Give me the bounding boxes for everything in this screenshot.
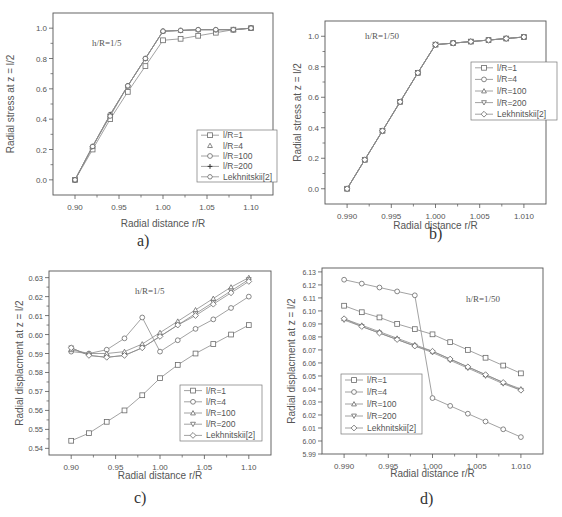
y-tick-label: 0.58 (28, 368, 43, 377)
chart-panel-b: 0.9900.9951.0001.0051.0100.00.20.40.60.8… (281, 0, 562, 258)
legend-label: l/R=4 (367, 387, 387, 397)
data-point-marker (73, 178, 78, 182)
y-tick-label: 0.4 (36, 115, 48, 124)
data-point-marker (161, 29, 166, 33)
y-tick-label: 0.55 (28, 425, 43, 434)
data-point-marker (395, 289, 400, 294)
data-point-marker (246, 294, 251, 299)
y-tick-label: 0.54 (28, 444, 43, 453)
data-point-marker (211, 342, 216, 347)
x-tick-label: 0.990 (337, 212, 358, 221)
y-tick-label: 0.59 (28, 350, 43, 359)
data-point-marker (501, 427, 506, 432)
y-tick-label: 6.00 (302, 438, 316, 445)
data-point-marker (122, 336, 127, 341)
data-point-marker (430, 332, 435, 337)
data-point-marker (210, 301, 216, 307)
data-point-marker (158, 349, 163, 354)
y-axis: 0.00.20.40.60.81.0 (308, 32, 325, 194)
x-tick-label: 1.05 (199, 203, 215, 212)
data-point-marker (519, 371, 524, 376)
data-point-marker (231, 28, 236, 32)
data-point-marker (161, 38, 166, 43)
data-point-marker (412, 293, 417, 298)
legend-label: Lekhnitskii[2] (497, 109, 546, 119)
legend-label: l/R=100 (206, 408, 236, 418)
data-point-marker (483, 355, 488, 360)
y-tick-label: 6.11 (303, 295, 316, 302)
y-axis-label: Radial displacment at z = l/2 (14, 300, 25, 426)
data-point-marker (359, 310, 364, 315)
x-tick-label: 0.95 (111, 203, 127, 212)
annotation-label: h/R=1/5 (92, 38, 122, 48)
legend-label: l/R=200 (223, 161, 253, 171)
x-tick-label: 0.90 (63, 463, 79, 472)
y-tick-label: 6.13 (302, 269, 316, 276)
x-tick-label: 1.010 (514, 212, 535, 221)
y-tick-label: 0.8 (36, 55, 48, 64)
y-tick-label: 0.60 (28, 331, 43, 340)
data-point-marker (104, 419, 109, 424)
data-point-marker (193, 351, 198, 356)
y-tick-label: 0.4 (308, 124, 320, 133)
legend: l/R=1l/R=4l/R=100l/R=200Lekhnitskii[2] (180, 385, 262, 441)
data-point-marker (125, 89, 130, 94)
y-axis: 0.00.20.40.60.81.0 (36, 24, 53, 185)
x-tick-label: 1.10 (241, 463, 257, 472)
y-axis-label: Radial stress at z = l/2 (5, 54, 16, 153)
data-point-marker (213, 28, 218, 32)
legend-label: l/R=1 (206, 386, 226, 396)
legend-marker-icon (482, 65, 487, 70)
caption-a: a) (137, 232, 149, 250)
y-tick-label: 6.09 (302, 321, 316, 328)
x-axis: 0.9900.9951.0001.0051.010 (337, 204, 534, 221)
y-tick-label: 0.63 (28, 274, 43, 283)
y-tick-label: 0.6 (308, 93, 320, 102)
caption-d: d) (420, 490, 433, 508)
data-point-marker (90, 144, 95, 148)
legend-label: l/R=1 (367, 375, 387, 385)
y-axis-label: Radial displacment at z = l/2 (286, 298, 297, 424)
y-tick-label: 0.61 (28, 312, 43, 321)
data-point-marker (178, 36, 183, 41)
x-axis-label: Radial distance r/R (121, 218, 205, 229)
data-point-marker (178, 28, 183, 32)
y-tick-label: 6.01 (302, 425, 316, 432)
data-point-marker (87, 431, 92, 436)
series-l-r-4 (69, 294, 251, 356)
annotation-label: h/R=1/50 (466, 294, 501, 304)
x-tick-label: 1.00 (155, 203, 171, 212)
data-point-marker (246, 323, 251, 328)
series-l-r-1 (342, 303, 524, 375)
legend-label: Lekhnitskii[2] (367, 423, 416, 433)
legend-label: Lekhnitskii[2] (223, 172, 272, 182)
chart-b-plot: 0.9900.9951.0001.0051.0100.00.20.40.60.8… (281, 0, 562, 258)
y-tick-label: 6.10 (302, 308, 316, 315)
data-point-marker (108, 114, 113, 118)
chart-panel-d: 0.9900.9951.0001.0051.0105.996.006.016.0… (281, 258, 562, 517)
data-point-marker (412, 327, 417, 332)
data-point-marker (143, 64, 148, 69)
data-point-marker (395, 322, 400, 327)
y-axis: 0.540.550.560.570.580.590.600.610.620.63 (28, 274, 49, 454)
legend-label: l/R=100 (497, 86, 527, 96)
chart-panel-c: 0.900.951.001.051.100.540.550.560.570.58… (0, 258, 281, 517)
data-point-marker (448, 403, 453, 408)
legend: l/R=1l/R=4l/R=100l/R=200Lekhnitskii[2] (341, 374, 422, 434)
legend-marker-icon (191, 388, 196, 393)
legend-marker-icon (208, 133, 213, 138)
y-tick-label: 0.8 (308, 63, 320, 72)
data-point-marker (483, 419, 488, 424)
data-point-marker (229, 306, 234, 311)
legend-label: l/R=200 (497, 98, 527, 108)
annotation-label: h/R=1/50 (365, 31, 400, 41)
y-tick-label: 6.07 (302, 347, 316, 354)
y-tick-label: 6.08 (302, 334, 316, 341)
data-point-marker (211, 317, 216, 322)
legend-label: l/R=100 (367, 399, 397, 409)
y-tick-label: 6.05 (302, 373, 316, 380)
data-point-marker (175, 338, 180, 343)
data-point-marker (377, 315, 382, 320)
legend-label: Lekhnitskii[2] (206, 430, 255, 440)
data-point-marker (519, 435, 524, 440)
